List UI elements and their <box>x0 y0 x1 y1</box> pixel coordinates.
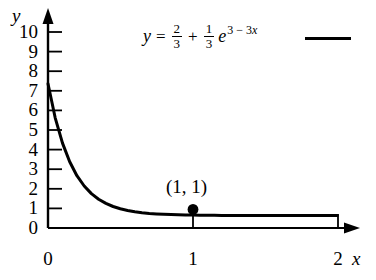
x-axis-title: x <box>352 249 360 268</box>
fraction-denominator: 3 <box>172 36 183 51</box>
fraction-numerator: 1 <box>204 22 215 36</box>
y-tick-label-7: 7 <box>2 81 38 100</box>
fraction-denominator: 3 <box>204 36 215 51</box>
exponent-expression: 3 − 3x <box>227 24 257 36</box>
equation-lhs: y <box>143 27 151 45</box>
y-tick-label-5: 5 <box>2 120 38 139</box>
fraction-one-third: 1 3 <box>204 22 215 50</box>
y-tick-label-6: 6 <box>2 100 38 119</box>
x-tick-label-2: 2 <box>326 249 350 268</box>
x-axis-arrow-icon <box>344 223 360 234</box>
y-tick-label-3: 3 <box>2 159 38 178</box>
y-tick-label-9: 9 <box>2 42 38 61</box>
x-tick-label-1: 1 <box>181 249 205 268</box>
fraction-two-thirds: 2 3 <box>172 22 183 50</box>
point-annotation-label: (1, 1) <box>166 177 207 196</box>
y-tick-label-0: 0 <box>2 218 38 237</box>
x-tick-label-0: 0 <box>36 249 60 268</box>
exponent-minus-sign: − <box>236 23 243 37</box>
y-tick-label-2: 2 <box>2 179 38 198</box>
exponential-decay-figure: y x 10 9 8 7 6 5 4 3 2 1 0 0 1 2 (1, 1) … <box>0 0 376 280</box>
fraction-numerator: 2 <box>172 22 183 36</box>
equation-legend: y = 2 3 + 1 3 e 3 − 3x <box>143 22 257 50</box>
exponent-term-a: 3 <box>227 23 233 37</box>
equation-plus-sign: + <box>188 28 198 45</box>
equation-equals-sign: = <box>156 28 166 45</box>
data-point-marker <box>188 204 199 215</box>
exponent-variable: x <box>252 23 257 37</box>
legend-line-swatch <box>305 37 351 40</box>
y-tick-label-4: 4 <box>2 140 38 159</box>
y-axis-arrow-icon <box>43 8 54 24</box>
y-tick-label-10: 10 <box>2 22 38 41</box>
exponential-base-e: e <box>218 27 226 45</box>
y-tick-label-1: 1 <box>2 198 38 217</box>
y-tick-label-8: 8 <box>2 61 38 80</box>
